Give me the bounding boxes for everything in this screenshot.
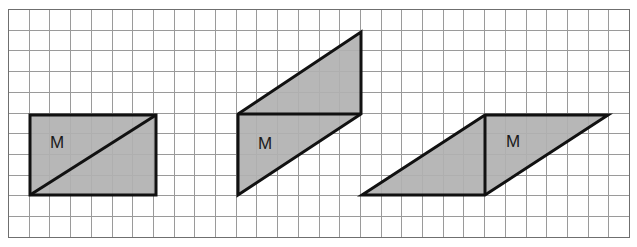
figure-svg: MMM <box>0 0 637 247</box>
parallelogram-slanted-wide-label: M <box>506 132 520 151</box>
rectangle-with-diagonal-label: M <box>50 133 64 152</box>
rectangle-with-diagonal: M <box>30 115 156 195</box>
figure-canvas: MMM <box>0 0 637 247</box>
parallelogram-slanted-tall-label: M <box>258 134 272 153</box>
